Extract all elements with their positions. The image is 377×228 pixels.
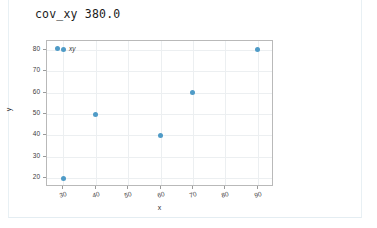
y-tick-label: 20 bbox=[22, 173, 40, 180]
gridline-vertical bbox=[193, 41, 194, 185]
gridline-horizontal bbox=[47, 157, 272, 158]
cell-output-text: cov_xy 380.0 bbox=[35, 7, 120, 21]
gridline-vertical bbox=[128, 41, 129, 185]
gridline-vertical bbox=[225, 41, 226, 185]
chart-legend: xy bbox=[55, 45, 76, 52]
gridline-vertical bbox=[161, 41, 162, 185]
x-tick-label: 50 bbox=[117, 189, 138, 201]
y-tick-label: 70 bbox=[22, 66, 40, 73]
x-tick-mark bbox=[62, 186, 63, 189]
x-tick-mark bbox=[224, 186, 225, 189]
notebook-output-cell: cov_xy 380.0 xy 30405060708090 203040506… bbox=[8, 0, 362, 218]
x-tick-label: 60 bbox=[150, 189, 171, 201]
y-axis-label: y bbox=[5, 108, 12, 112]
y-tick-label: 60 bbox=[22, 88, 40, 95]
gridline-horizontal bbox=[47, 93, 272, 94]
x-axis-label: x bbox=[46, 204, 273, 211]
x-tick-mark bbox=[257, 186, 258, 189]
gridline-vertical bbox=[258, 41, 259, 185]
y-tick-label: 80 bbox=[22, 45, 40, 52]
y-tick-mark bbox=[43, 156, 46, 157]
legend-label: xy bbox=[69, 45, 76, 52]
x-tick-label: 40 bbox=[85, 189, 106, 201]
gridline-vertical bbox=[63, 41, 64, 185]
data-point bbox=[158, 133, 163, 138]
plot-area: xy bbox=[46, 40, 273, 186]
y-tick-mark bbox=[43, 70, 46, 71]
y-tick-mark bbox=[43, 92, 46, 93]
y-tick-label: 40 bbox=[22, 130, 40, 137]
scatter-plot-figure: xy 30405060708090 20304050607080 x y bbox=[9, 28, 363, 216]
data-point bbox=[93, 112, 98, 117]
x-tick-label: 90 bbox=[247, 189, 268, 201]
gridline-horizontal bbox=[47, 71, 272, 72]
y-tick-mark bbox=[43, 113, 46, 114]
y-tick-label: 30 bbox=[22, 152, 40, 159]
x-tick-mark bbox=[127, 186, 128, 189]
data-point bbox=[190, 90, 195, 95]
x-tick-label: 80 bbox=[215, 189, 236, 201]
x-tick-label: 70 bbox=[182, 189, 203, 201]
data-point bbox=[255, 47, 260, 52]
gridline-horizontal bbox=[47, 178, 272, 179]
gridline-horizontal bbox=[47, 50, 272, 51]
legend-marker-icon bbox=[55, 46, 60, 51]
y-tick-mark bbox=[43, 134, 46, 135]
y-tick-label: 50 bbox=[22, 109, 40, 116]
gridline-horizontal bbox=[47, 114, 272, 115]
data-point bbox=[61, 176, 66, 181]
x-tick-mark bbox=[192, 186, 193, 189]
y-tick-mark bbox=[43, 177, 46, 178]
x-tick-mark bbox=[95, 186, 96, 189]
x-tick-mark bbox=[160, 186, 161, 189]
x-tick-label: 30 bbox=[53, 189, 74, 201]
y-tick-mark bbox=[43, 49, 46, 50]
